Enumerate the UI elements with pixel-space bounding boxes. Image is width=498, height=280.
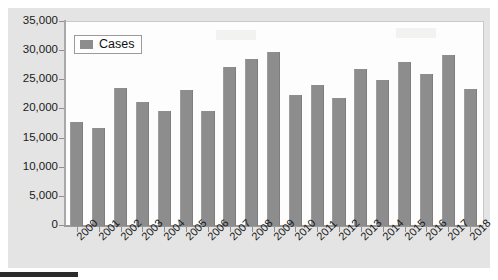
bar	[201, 111, 214, 226]
y-axis-tick-mark	[59, 196, 64, 197]
bar-slot	[219, 21, 241, 226]
bar-slot	[328, 21, 350, 226]
bar-slot	[306, 21, 328, 226]
bottom-edge-strip	[0, 272, 78, 277]
y-axis-tick-mark	[59, 21, 64, 22]
bar-slot	[153, 21, 175, 226]
y-axis-tick-mark	[59, 225, 64, 226]
bar-slot	[350, 21, 372, 226]
bar	[223, 67, 236, 226]
y-axis-tick-label: 15,000	[8, 131, 58, 145]
bar	[267, 52, 280, 226]
bar	[442, 55, 455, 226]
bar-slot	[241, 21, 263, 226]
bar	[376, 80, 389, 226]
y-axis-tick-label: 35,000	[8, 14, 58, 28]
bar	[92, 128, 105, 227]
y-axis-tick-labels: 35,00030,00025,00020,00015,00010,0005,00…	[8, 8, 58, 268]
bar	[398, 62, 411, 226]
bar-slot	[284, 21, 306, 226]
bar	[114, 88, 127, 226]
bar	[464, 89, 477, 226]
bar	[420, 74, 433, 226]
y-axis-tick-mark	[59, 108, 64, 109]
x-axis-tick-labels: 2000200120022003200420052006200720082009…	[66, 234, 496, 268]
bar	[354, 69, 367, 226]
y-axis-tick-mark	[59, 79, 64, 80]
bar-slot	[459, 21, 481, 226]
bar	[245, 59, 258, 226]
bar-slot	[263, 21, 285, 226]
bar-slot	[394, 21, 416, 226]
bar	[311, 85, 324, 226]
y-axis-tick-mark	[59, 50, 64, 51]
bar-slot	[437, 21, 459, 226]
bar	[158, 111, 171, 226]
bar	[289, 95, 302, 226]
y-axis-tick-label: 30,000	[8, 43, 58, 57]
bar-slot	[372, 21, 394, 226]
bar	[70, 122, 83, 226]
y-axis-tick-label: 10,000	[8, 160, 58, 174]
chart-legend: Cases	[74, 35, 142, 54]
y-axis-tick-mark	[59, 138, 64, 139]
y-axis-tick-label: 0	[8, 218, 58, 232]
y-axis-tick-label: 25,000	[8, 72, 58, 86]
legend-square-icon	[80, 40, 93, 49]
bar-slot	[415, 21, 437, 226]
bar-slot	[175, 21, 197, 226]
bar	[180, 90, 193, 226]
legend-label: Cases	[99, 38, 134, 51]
y-axis-tick-label: 20,000	[8, 101, 58, 115]
bar	[332, 98, 345, 226]
bar-slot	[197, 21, 219, 226]
y-axis-tick-mark	[59, 167, 64, 168]
bar	[136, 102, 149, 226]
chart-container: 35,00030,00025,00020,00015,00010,0005,00…	[8, 8, 490, 268]
y-axis-tick-label: 5,000	[8, 189, 58, 203]
